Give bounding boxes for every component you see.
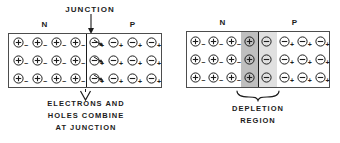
left-caption-line-1: ELECTRONS AND: [16, 99, 156, 109]
hole-icon: −: [32, 55, 43, 66]
pn-junction-figure: JUNCTION N P −−−−++++−−−−++++−−−−++++ EL…: [0, 0, 340, 143]
carrier-cell: −: [28, 69, 47, 87]
right-semiconductor-bar: −−−+++−−−+++−−−+++: [186, 31, 330, 88]
carrier-cell: −: [9, 52, 28, 70]
carrier-cell: −: [187, 50, 205, 68]
electron-icon: +: [279, 54, 290, 65]
electron-icon: +: [127, 73, 138, 84]
recombination-flow-arrow: [94, 33, 104, 51]
carrier-cell: +: [311, 69, 329, 87]
carrier-cell: −: [47, 69, 66, 87]
right-caption-line-1: DEPLETION: [198, 104, 318, 114]
ion-pos-icon: [244, 36, 255, 47]
electron-icon: +: [127, 37, 138, 48]
carrier-cell: −: [223, 32, 241, 50]
carrier-cell: +: [85, 69, 104, 87]
recombination-flow-arrow: [94, 68, 104, 86]
carrier-subscript: +: [157, 61, 161, 67]
hole-icon: −: [226, 54, 237, 65]
carrier-cell: +: [276, 32, 294, 50]
electron-icon: +: [297, 54, 308, 65]
electron-icon: +: [297, 36, 308, 47]
carrier-cell: +: [104, 52, 123, 70]
hole-icon: −: [51, 55, 62, 66]
carrier-subscript: +: [157, 79, 161, 85]
carrier-subscript: +: [326, 60, 330, 66]
left-carrier-grid: −−−−++++−−−−++++−−−−++++: [9, 34, 161, 87]
carrier-cell: +: [142, 34, 161, 52]
recombination-flow-arrow: [94, 50, 104, 68]
carrier-subscript: +: [326, 78, 330, 84]
carrier-cell: −: [187, 69, 205, 87]
carrier-cell: −: [28, 52, 47, 70]
electron-icon: +: [279, 36, 290, 47]
hole-icon: −: [208, 36, 219, 47]
right-junction-line: [258, 32, 259, 87]
hole-icon: −: [13, 73, 24, 84]
hole-icon: −: [70, 37, 81, 48]
electron-icon: +: [108, 37, 119, 48]
hole-icon: −: [190, 54, 201, 65]
ion-pos-icon: [244, 72, 255, 83]
carrier-cell: [258, 69, 276, 87]
right-panel-p-label: P: [288, 18, 302, 28]
carrier-cell: +: [85, 52, 104, 70]
carrier-cell: +: [276, 50, 294, 68]
carrier-cell: −: [28, 34, 47, 52]
hole-icon: −: [208, 54, 219, 65]
hole-icon: −: [70, 55, 81, 66]
ion-neg-icon: [261, 72, 272, 83]
ion-neg-icon: [261, 54, 272, 65]
left-caption-line-3: AT JUNCTION: [16, 123, 156, 133]
carrier-cell: [240, 32, 258, 50]
carrier-cell: −: [66, 34, 85, 52]
carrier-cell: −: [205, 32, 223, 50]
carrier-cell: +: [142, 69, 161, 87]
electron-icon: +: [127, 55, 138, 66]
carrier-cell: −: [47, 52, 66, 70]
left-semiconductor-bar: −−−−++++−−−−++++−−−−++++: [8, 33, 162, 88]
electron-icon: +: [315, 54, 326, 65]
carrier-cell: −: [223, 50, 241, 68]
ion-pos-icon: [244, 54, 255, 65]
carrier-cell: +: [104, 69, 123, 87]
hole-icon: −: [13, 37, 24, 48]
carrier-cell: +: [294, 69, 312, 87]
carrier-cell: −: [66, 52, 85, 70]
carrier-cell: −: [187, 32, 205, 50]
left-panel-p-label: P: [126, 20, 140, 30]
electron-icon: +: [146, 55, 157, 66]
carrier-cell: [258, 50, 276, 68]
carrier-subscript: +: [326, 42, 330, 48]
left-panel-n-label: N: [38, 20, 52, 30]
carrier-cell: −: [223, 69, 241, 87]
left-junction-line: [86, 34, 87, 87]
electron-icon: +: [146, 37, 157, 48]
hole-icon: −: [51, 73, 62, 84]
hole-icon: −: [208, 72, 219, 83]
hole-icon: −: [32, 37, 43, 48]
carrier-cell: [240, 69, 258, 87]
carrier-cell: +: [294, 32, 312, 50]
carrier-cell: −: [66, 69, 85, 87]
carrier-cell: +: [142, 52, 161, 70]
electron-icon: +: [108, 73, 119, 84]
electron-icon: +: [279, 72, 290, 83]
carrier-cell: +: [311, 50, 329, 68]
ion-neg-icon: [261, 36, 272, 47]
hole-icon: −: [190, 72, 201, 83]
carrier-cell: −: [205, 69, 223, 87]
hole-icon: −: [70, 73, 81, 84]
carrier-cell: +: [104, 34, 123, 52]
carrier-cell: +: [123, 52, 142, 70]
carrier-cell: −: [47, 34, 66, 52]
carrier-cell: −: [205, 50, 223, 68]
right-caption-line-2: REGION: [198, 116, 318, 126]
carrier-cell: +: [276, 69, 294, 87]
hole-icon: −: [190, 36, 201, 47]
carrier-cell: +: [311, 32, 329, 50]
hole-icon: −: [32, 73, 43, 84]
hole-icon: −: [13, 55, 24, 66]
electron-icon: +: [108, 55, 119, 66]
carrier-cell: [258, 32, 276, 50]
